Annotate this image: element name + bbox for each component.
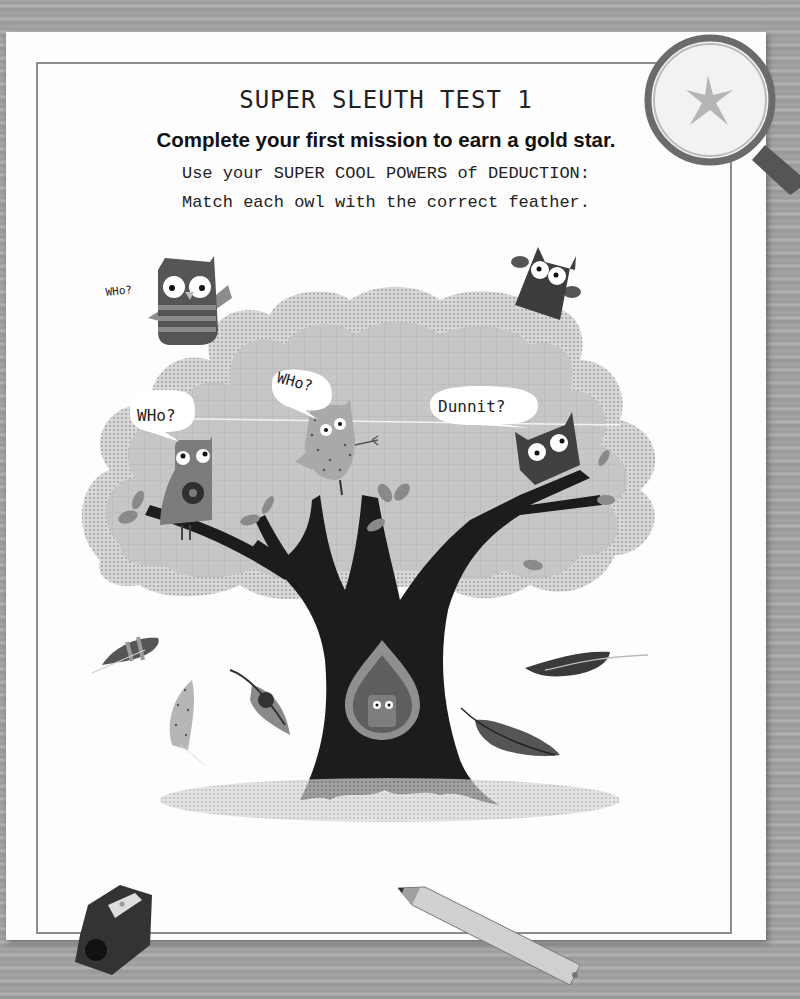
pencil-sharpener	[75, 885, 152, 975]
speech-bubble-right: Dunnit?	[430, 386, 538, 428]
svg-text:Dunnit?: Dunnit?	[438, 397, 505, 416]
hollow-owl[interactable]	[368, 695, 396, 727]
dark-feather-bottom[interactable]	[461, 708, 560, 756]
svg-text:WHo?: WHo?	[137, 406, 176, 425]
speech-bubble-top-left: WHo?	[105, 283, 133, 299]
magnifying-glass	[648, 38, 800, 195]
ground-shadow	[160, 778, 620, 822]
illustration: WHo? WHo? WHo? Dunnit?	[0, 0, 800, 999]
dark-feather-top[interactable]	[525, 652, 648, 677]
flower-feather[interactable]	[230, 670, 290, 735]
svg-text:WHo?: WHo?	[105, 283, 133, 299]
striped-feather[interactable]	[92, 637, 159, 673]
pencil	[398, 887, 580, 985]
dotted-feather[interactable]	[170, 680, 205, 765]
